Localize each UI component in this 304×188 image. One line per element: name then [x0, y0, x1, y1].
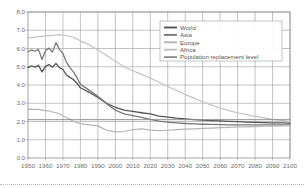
x-axis-tick-label: 2010 — [126, 162, 140, 169]
chart-legend: WorldAsiaEuropeAfricaPopulation replacem… — [160, 21, 282, 61]
chart-canvas: 0.01.02.03.04.05.06.07.08.0 195019601970… — [0, 0, 304, 188]
x-axis-tick-label: 2080 — [248, 162, 262, 169]
y-axis-tick-label: 4.0 — [16, 81, 25, 88]
y-axis-tick-label: 3.0 — [16, 99, 25, 106]
x-axis-tick-label: 2030 — [161, 162, 175, 169]
x-axis-tick-label: 1990 — [91, 162, 105, 169]
x-axis-tick-label: 2060 — [213, 162, 227, 169]
x-axis-ticks: 1950196019701980199020002010202020302040… — [21, 158, 297, 169]
y-axis-tick-label: 7.0 — [16, 26, 25, 33]
y-axis-tick-label: 1.0 — [16, 136, 25, 143]
y-axis-ticks: 0.01.02.03.04.05.06.07.08.0 — [16, 8, 28, 161]
legend-label-africa: Africa — [180, 46, 196, 53]
bottom-divider — [0, 184, 304, 185]
fertility-rate-chart: 0.01.02.03.04.05.06.07.08.0 195019601970… — [0, 0, 304, 188]
x-axis-tick-label: 2000 — [108, 162, 122, 169]
x-axis-tick-label: 2090 — [266, 162, 280, 169]
x-axis-tick-label: 1970 — [56, 162, 70, 169]
x-axis-tick-label: 2040 — [178, 162, 192, 169]
x-axis-tick-label: 2020 — [143, 162, 157, 169]
x-axis-tick-label: 2070 — [231, 162, 245, 169]
x-axis-tick-label: 2100 — [283, 162, 297, 169]
x-axis-tick-label: 2050 — [196, 162, 210, 169]
y-axis-tick-label: 2.0 — [16, 118, 25, 125]
x-axis-tick-label: 1960 — [39, 162, 53, 169]
y-axis-tick-label: 5.0 — [16, 63, 25, 70]
legend-label-world: World — [180, 24, 196, 31]
legend-label-asia: Asia — [180, 31, 192, 38]
legend-label-europe: Europe — [180, 39, 200, 46]
x-axis-tick-label: 1980 — [74, 162, 88, 169]
y-axis-tick-label: 8.0 — [16, 8, 25, 15]
x-axis-tick-label: 1950 — [21, 162, 35, 169]
legend-label-population-replacement-level: Population replacement level — [180, 53, 258, 60]
y-axis-tick-label: 0.0 — [16, 154, 25, 161]
y-axis-tick-label: 6.0 — [16, 45, 25, 52]
